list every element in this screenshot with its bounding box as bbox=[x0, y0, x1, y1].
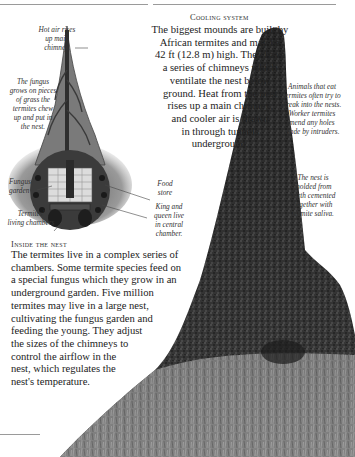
label-food-store: Food store bbox=[150, 179, 180, 197]
body-line: a series of chimneys which bbox=[140, 62, 300, 75]
body-line: African termites and may be bbox=[140, 37, 300, 50]
body-line: feeding the young. They adjust bbox=[11, 325, 211, 338]
body-line: 42 ft (12.8 m) high. They have bbox=[140, 49, 300, 62]
label-line: Fungus bbox=[9, 177, 39, 186]
label-hot-air: Hot air rises up main chimney. bbox=[32, 25, 82, 52]
label-fungus-garden: Fungus garden bbox=[9, 177, 39, 195]
label-line: King and bbox=[150, 202, 188, 211]
caption-line: termite saliva. bbox=[280, 209, 346, 218]
inside-the-nest-heading: Inside the nest bbox=[11, 239, 67, 249]
body-line: underground garden. Five million bbox=[11, 287, 211, 300]
label-line: Food bbox=[150, 179, 180, 188]
label-king-queen: King and queen live in central chamber. bbox=[150, 202, 188, 238]
label-line: garden bbox=[9, 186, 39, 195]
label-line: chimney. bbox=[32, 43, 82, 52]
label-line: Hot air rises bbox=[32, 25, 82, 34]
caption-line: termites often try to bbox=[270, 91, 354, 100]
label-line: living chambers bbox=[4, 218, 58, 227]
label-living-chambers: Termites' living chambers bbox=[4, 209, 58, 227]
body-line: nest, which regulates the bbox=[11, 363, 211, 376]
label-line: grows on pieces bbox=[5, 86, 61, 95]
body-line: cultivating the fungus garden and bbox=[11, 313, 211, 326]
caption-line: mend any holes bbox=[270, 118, 354, 127]
body-line: The biggest mounds are built by bbox=[140, 24, 300, 37]
caption-nest-molded: The nest is molded from earth cemented t… bbox=[280, 173, 346, 218]
caption-line: The nest is bbox=[280, 173, 346, 182]
cooling-system-heading: Cooling system bbox=[190, 12, 249, 22]
label-line: up and put in bbox=[5, 113, 61, 122]
inside-the-nest-body: The termites live in a complex series of… bbox=[11, 249, 211, 389]
label-line: up main bbox=[32, 34, 82, 43]
body-line: a special fungus which they grow in an bbox=[11, 274, 211, 287]
caption-line: made by intruders. bbox=[270, 127, 354, 136]
bottom-rule bbox=[0, 434, 40, 435]
label-line: chamber. bbox=[150, 229, 188, 238]
label-line: queen live bbox=[150, 211, 188, 220]
body-line: underground. bbox=[140, 138, 300, 151]
label-line: of grass the bbox=[5, 95, 61, 104]
label-line: the nest. bbox=[5, 122, 61, 131]
body-line: the sizes of the chimneys to bbox=[11, 338, 211, 351]
mound-hole bbox=[261, 340, 305, 364]
caption-line: together with bbox=[280, 200, 346, 209]
label-line: Termites' bbox=[4, 209, 58, 218]
body-line: termites may live in a large nest, bbox=[11, 300, 211, 313]
label-line: store bbox=[150, 188, 180, 197]
caption-line: earth cemented bbox=[280, 191, 346, 200]
label-line: in central bbox=[150, 220, 188, 229]
caption-line: Worker termites bbox=[270, 109, 354, 118]
label-fungus-grows: The fungus grows on pieces of grass the … bbox=[5, 77, 61, 131]
caption-line: break into the nests. bbox=[270, 100, 354, 109]
caption-line: Animals that eat bbox=[270, 82, 354, 91]
body-line: control the airflow in the bbox=[11, 351, 211, 364]
body-line: nest's temperature. bbox=[11, 376, 211, 389]
caption-animals-break-in: Animals that eat termites often try to b… bbox=[270, 82, 354, 136]
body-line: chambers. Some termite species feed on bbox=[11, 262, 211, 275]
label-line: termites chew bbox=[5, 104, 61, 113]
body-line: The termites live in a complex series of bbox=[11, 249, 211, 262]
caption-line: molded from bbox=[280, 182, 346, 191]
label-line: The fungus bbox=[5, 77, 61, 86]
